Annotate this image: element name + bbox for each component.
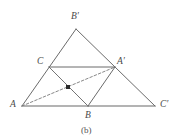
figure-container: A B C′ C A′ B′ (b) <box>0 0 179 140</box>
side-B-Aprime <box>88 67 115 106</box>
vertex-label-a: A <box>10 100 16 110</box>
vertex-label-c: C <box>37 57 43 67</box>
vertex-label-b-prime: B′ <box>71 12 79 22</box>
centroid-marker <box>66 85 70 89</box>
vertex-label-b: B <box>85 111 91 121</box>
centroid-marker-group <box>66 85 70 89</box>
vertex-label-a-prime: A′ <box>117 57 125 67</box>
figure-caption: (b) <box>81 126 92 135</box>
triangle-edge-group <box>22 29 155 106</box>
vertex-label-c-prime: C′ <box>160 100 168 110</box>
